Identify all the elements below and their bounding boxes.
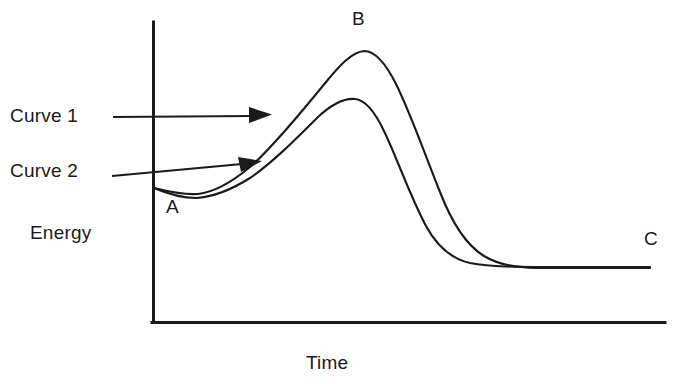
- energy-time-line-chart: Energy Time A B C Curve 1 Curve 2: [0, 0, 675, 384]
- curve-1-annotation-label: Curve 1: [10, 105, 78, 127]
- y-axis-label: Energy: [30, 222, 91, 244]
- point-label-c: C: [644, 228, 658, 250]
- curve-2-annotation-arrow: [112, 157, 262, 176]
- point-label-b: B: [352, 8, 365, 30]
- curve-1-annotation-arrow: [113, 107, 272, 123]
- curve-2-annotation-label: Curve 2: [10, 160, 78, 182]
- chart-canvas: [0, 0, 675, 384]
- axis-lines: [152, 22, 665, 323]
- point-label-a: A: [166, 196, 179, 218]
- x-axis-label: Time: [306, 352, 348, 374]
- curve-1-path: [154, 51, 650, 268]
